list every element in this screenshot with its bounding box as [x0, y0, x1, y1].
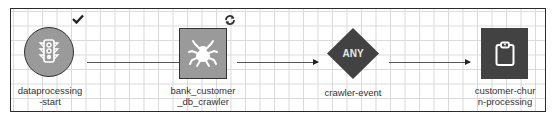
node-crawler-event[interactable]: ANY	[326, 27, 380, 80]
node-dataprocessing-start[interactable]	[24, 27, 74, 77]
checkmark-icon	[72, 14, 84, 24]
refresh-icon	[224, 14, 236, 26]
node-label-bank-customer-db-crawler: bank_customer _db_crawler	[163, 85, 243, 107]
node-bank-customer-db-crawler[interactable]	[179, 28, 227, 79]
node-customer-churn-processing[interactable]	[481, 28, 528, 79]
edge-crawler-to-event	[237, 62, 318, 63]
diamond-shape: ANY	[326, 27, 380, 80]
edge-event-to-job	[389, 62, 470, 63]
edge-start-to-crawler	[87, 62, 187, 63]
node-label-crawler-event: crawler-event	[313, 87, 393, 98]
event-condition-text: ANY	[342, 48, 363, 59]
node-label-dataprocessing-start: dataprocessing -start	[14, 85, 86, 107]
spider-icon	[187, 39, 219, 69]
traffic-light-icon	[38, 39, 60, 65]
node-label-customer-churn-processing: customer-chur n-processing	[465, 85, 545, 107]
clipboard-icon	[494, 41, 516, 67]
